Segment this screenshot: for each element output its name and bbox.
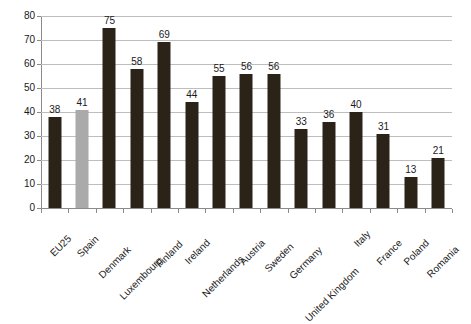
y-tick-label-80: 80 xyxy=(24,11,35,21)
gridline-0 xyxy=(41,208,452,209)
x-tick-mark xyxy=(315,209,316,213)
x-tick-mark xyxy=(205,209,206,213)
x-axis-label-germany: Germany xyxy=(317,216,353,252)
x-axis-label-ireland: Ireland xyxy=(205,216,234,245)
x-tick-mark xyxy=(425,209,426,213)
bar-value-label: 36 xyxy=(323,110,334,120)
y-axis: 01020304050607080 xyxy=(0,16,35,208)
bar-slot: 40 xyxy=(342,16,369,208)
bar-value-label: 69 xyxy=(159,30,170,40)
bar-value-label: 55 xyxy=(214,64,225,74)
x-axis-label-text: United Kingdom xyxy=(303,266,360,323)
bar-slot: 36 xyxy=(315,16,342,208)
x-axis-label-poland: Poland xyxy=(424,216,453,245)
plot-area: 384175586944555656333640311321 xyxy=(41,16,452,208)
x-tick-mark xyxy=(288,209,289,213)
y-tick-label-50: 50 xyxy=(24,83,35,93)
bar-value-label: 13 xyxy=(405,165,416,175)
x-tick-mark xyxy=(68,209,69,213)
y-tick-label-60: 60 xyxy=(24,59,35,69)
bar-value-label: 75 xyxy=(104,16,115,26)
bar-slot: 13 xyxy=(397,16,424,208)
x-axis-label-eu25: EU25 xyxy=(66,216,91,241)
bar-slot: 38 xyxy=(41,16,68,208)
bar-slot: 33 xyxy=(288,16,315,208)
bar-slot: 56 xyxy=(233,16,260,208)
bar-germany[interactable] xyxy=(295,129,308,208)
x-tick-mark xyxy=(41,209,42,213)
y-tick-mark-50 xyxy=(37,88,41,89)
y-tick-mark-30 xyxy=(37,136,41,137)
bar-value-label: 21 xyxy=(433,146,444,156)
bar-value-label: 40 xyxy=(351,100,362,110)
x-axis-label-text: EU25 xyxy=(48,234,73,259)
x-tick-mark xyxy=(342,209,343,213)
y-tick-mark-60 xyxy=(37,64,41,65)
x-axis-label-romania: Romania xyxy=(454,216,471,251)
bar-value-label: 44 xyxy=(186,90,197,100)
y-tick-label-70: 70 xyxy=(24,35,35,45)
bar-value-label: 38 xyxy=(49,105,60,115)
x-tick-mark xyxy=(370,209,371,213)
bar-united-kingdom[interactable] xyxy=(322,122,335,208)
bar-spain[interactable] xyxy=(76,110,89,208)
x-axis-label-text: Finland xyxy=(155,239,185,269)
bar-slot: 75 xyxy=(96,16,123,208)
x-tick-mark xyxy=(151,209,152,213)
bar-slot: 58 xyxy=(123,16,150,208)
y-tick-label-20: 20 xyxy=(24,155,35,165)
bar-austria[interactable] xyxy=(240,74,253,208)
bar-france[interactable] xyxy=(377,134,390,208)
bar-eu25[interactable] xyxy=(48,117,61,208)
x-tick-mark xyxy=(96,209,97,213)
x-axis-label-italy: Italy xyxy=(365,216,385,236)
bar-luxembourg[interactable] xyxy=(130,69,143,208)
bar-ireland[interactable] xyxy=(185,102,198,208)
bar-value-label: 33 xyxy=(296,117,307,127)
bar-denmark[interactable] xyxy=(103,28,116,208)
bar-slot: 55 xyxy=(205,16,232,208)
bar-slot: 44 xyxy=(178,16,205,208)
bar-slot: 56 xyxy=(260,16,287,208)
y-tick-mark-40 xyxy=(37,112,41,113)
bar-slot: 69 xyxy=(151,16,178,208)
y-tick-label-0: 0 xyxy=(29,203,35,213)
x-tick-mark xyxy=(397,209,398,213)
y-tick-label-10: 10 xyxy=(24,179,35,189)
y-tick-label-40: 40 xyxy=(24,107,35,117)
y-tick-mark-20 xyxy=(37,160,41,161)
x-tick-mark xyxy=(452,209,453,213)
bar-value-label: 58 xyxy=(131,57,142,67)
x-axis-label-text: Italy xyxy=(352,229,372,249)
y-tick-mark-10 xyxy=(37,184,41,185)
x-tick-mark xyxy=(123,209,124,213)
bar-value-label: 41 xyxy=(77,98,88,108)
x-axis-label-text: Romania xyxy=(426,244,461,279)
bar-italy[interactable] xyxy=(350,112,363,208)
bar-sweden[interactable] xyxy=(267,74,280,208)
bar-romania[interactable] xyxy=(432,158,445,208)
x-tick-mark xyxy=(178,209,179,213)
x-tick-mark xyxy=(233,209,234,213)
bar-finland[interactable] xyxy=(158,42,171,208)
x-axis-label-text: Spain xyxy=(75,234,100,259)
bar-value-label: 31 xyxy=(378,122,389,132)
bar-slot: 31 xyxy=(370,16,397,208)
bar-value-label: 56 xyxy=(241,62,252,72)
bar-slot: 21 xyxy=(425,16,452,208)
x-tick-mark xyxy=(260,209,261,213)
bar-poland[interactable] xyxy=(404,177,417,208)
x-axis-label-text: Denmark xyxy=(97,245,133,281)
bar-slot: 41 xyxy=(68,16,95,208)
x-axis-label-denmark: Denmark xyxy=(125,216,161,252)
y-tick-mark-70 xyxy=(37,40,41,41)
y-tick-mark-80 xyxy=(37,16,41,17)
x-axis-label-spain: Spain xyxy=(94,216,119,241)
bar-netherlands[interactable] xyxy=(213,76,226,208)
bar-value-label: 56 xyxy=(268,62,279,72)
y-tick-label-30: 30 xyxy=(24,131,35,141)
